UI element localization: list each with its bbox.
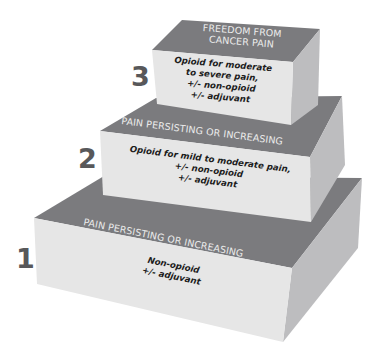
step-2-number: 2 <box>78 143 97 174</box>
step-1-number: 1 <box>16 243 35 274</box>
analgesic-ladder-diagram: PAIN PERSISTING OR INCREASING Non-opioid… <box>0 0 376 353</box>
step-3-number: 3 <box>131 61 150 92</box>
